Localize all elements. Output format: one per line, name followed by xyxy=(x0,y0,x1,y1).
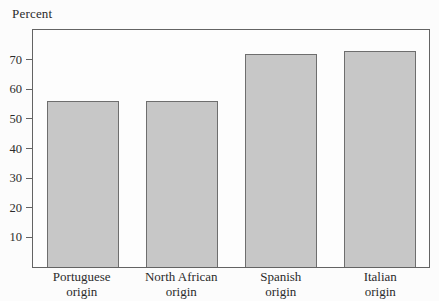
y-tick-mark xyxy=(26,148,33,149)
x-category-label: North African origin xyxy=(132,270,232,299)
bar-slot xyxy=(132,30,231,267)
x-category-label: Spanish origin xyxy=(231,270,331,299)
y-tick-mark xyxy=(26,118,33,119)
bar-chart-figure: Percent 10203040506070 Portuguese origin… xyxy=(0,0,439,301)
bar-portuguese-origin xyxy=(47,101,119,267)
y-tick-label: 40 xyxy=(0,142,22,155)
bar-italian-origin xyxy=(344,51,416,267)
bar-north-african-origin xyxy=(146,101,218,267)
y-tick-label: 30 xyxy=(0,172,22,185)
x-category-label: Italian origin xyxy=(331,270,431,299)
bars-container xyxy=(33,30,429,267)
bar-slot xyxy=(33,30,132,267)
y-tick-label: 70 xyxy=(0,53,22,66)
plot-area: 10203040506070 xyxy=(32,29,430,268)
y-tick-label: 10 xyxy=(0,231,22,244)
y-tick-mark xyxy=(26,59,33,60)
y-tick-label: 50 xyxy=(0,113,22,126)
x-axis-labels: Portuguese originNorth African originSpa… xyxy=(32,270,430,299)
x-category-label: Portuguese origin xyxy=(32,270,132,299)
bar-slot xyxy=(330,30,429,267)
y-tick-mark xyxy=(26,178,33,179)
y-tick-label: 60 xyxy=(0,83,22,96)
y-tick-mark xyxy=(26,237,33,238)
bar-slot xyxy=(231,30,330,267)
y-axis-title: Percent xyxy=(12,6,52,22)
y-tick-label: 20 xyxy=(0,202,22,215)
y-tick-mark xyxy=(26,89,33,90)
bar-spanish-origin xyxy=(245,54,317,267)
y-tick-mark xyxy=(26,207,33,208)
